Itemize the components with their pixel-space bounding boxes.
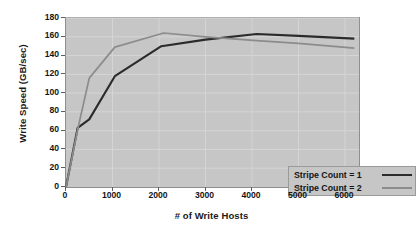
y-tick-mark <box>61 92 65 93</box>
y-tick-mark <box>61 167 65 168</box>
data-series-layer <box>66 18 359 187</box>
x-tick-label: 6000 <box>324 190 364 200</box>
y-tick-mark <box>61 111 65 112</box>
y-tick-mark <box>61 36 65 37</box>
y-tick-label: 180 <box>33 12 59 22</box>
y-axis-title: Write Speed (GB/sec) <box>17 4 28 184</box>
x-tick-mark <box>298 187 299 191</box>
x-tick-mark <box>112 187 113 191</box>
y-tick-label: 80 <box>33 105 59 115</box>
x-tick-mark <box>251 187 252 191</box>
y-tick-mark <box>61 148 65 149</box>
plot-area: Stripe Count = 1 Stripe Count = 2 <box>65 17 360 188</box>
y-tick-mark <box>61 55 65 56</box>
y-tick-label: 120 <box>33 68 59 78</box>
legend-label-series-1: Stripe Count = 1 <box>289 170 382 180</box>
legend-swatch-series-2 <box>382 183 412 192</box>
series-line-2 <box>66 33 354 187</box>
y-tick-label: 160 <box>33 30 59 40</box>
y-tick-label: 20 <box>33 162 59 172</box>
x-tick-label: 1000 <box>92 190 132 200</box>
y-tick-label: 60 <box>33 124 59 134</box>
x-tick-label: 0 <box>45 190 85 200</box>
x-axis-title: # of Write Hosts <box>65 210 358 221</box>
y-tick-label: 140 <box>33 49 59 59</box>
x-tick-mark <box>205 187 206 191</box>
x-tick-label: 3000 <box>185 190 225 200</box>
x-tick-label: 5000 <box>278 190 318 200</box>
x-tick-label: 4000 <box>231 190 271 200</box>
x-tick-mark <box>344 187 345 191</box>
y-tick-label: 40 <box>33 143 59 153</box>
x-tick-mark <box>65 187 66 191</box>
series-line-1 <box>66 34 354 187</box>
y-tick-label: 100 <box>33 87 59 97</box>
y-tick-mark <box>61 17 65 18</box>
x-tick-mark <box>158 187 159 191</box>
y-tick-label: 0 <box>33 181 59 191</box>
y-tick-mark <box>61 130 65 131</box>
legend-entry: Stripe Count = 1 <box>289 168 417 181</box>
legend-swatch-series-1 <box>382 170 412 179</box>
x-tick-label: 2000 <box>138 190 178 200</box>
y-tick-mark <box>61 73 65 74</box>
